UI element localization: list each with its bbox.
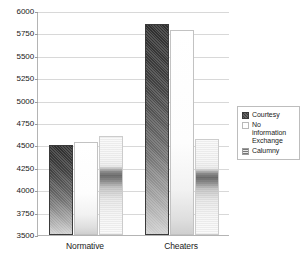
bar-courtesy [145,24,169,235]
bar-calumny [195,139,219,235]
y-axis-tick-label: 5750 [2,30,34,38]
legend-swatch-icon [242,122,249,129]
y-axis-tick-label: 6000 [2,8,34,16]
legend-swatch-icon [242,112,249,119]
y-axis-tick-label: 5000 [2,98,34,106]
bar-no-information-exchange [74,142,98,235]
bar-courtesy [49,145,73,235]
legend-item: Calumny [242,147,296,155]
y-axis-tick-label: 4750 [2,120,34,128]
x-axis-tick-label: Normative [45,242,125,251]
y-axis-tick-label: 4250 [2,165,34,173]
y-axis-tick-label: 3500 [2,232,34,240]
legend-item: No information Exchange [242,121,296,145]
bar-calumny [99,136,123,235]
legend-swatch-icon [242,148,249,155]
y-axis-tick-label: 5500 [2,53,34,61]
legend-item-label: Courtesy [252,111,280,119]
legend: CourtesyNo information ExchangeCalumny [237,106,300,160]
y-axis-tick-label: 4500 [2,142,34,150]
legend-item-label: Calumny [252,147,279,155]
legend-item: Courtesy [242,111,296,119]
y-axis-tick-label: 4000 [2,187,34,195]
y-axis-tick-label: 3750 [2,210,34,218]
plot-area [37,12,229,236]
y-axis-tick [35,236,38,237]
bars-layer [38,12,229,235]
y-axis-tick-label: 5250 [2,75,34,83]
bar-no-information-exchange [170,30,194,235]
legend-item-label: No information Exchange [252,121,296,145]
y-axis-labels: 3500375040004250450047505000525055005750… [0,12,34,236]
x-axis-tick-label: Cheaters [141,242,221,251]
bar-chart: 3500375040004250450047505000525055005750… [0,0,304,260]
